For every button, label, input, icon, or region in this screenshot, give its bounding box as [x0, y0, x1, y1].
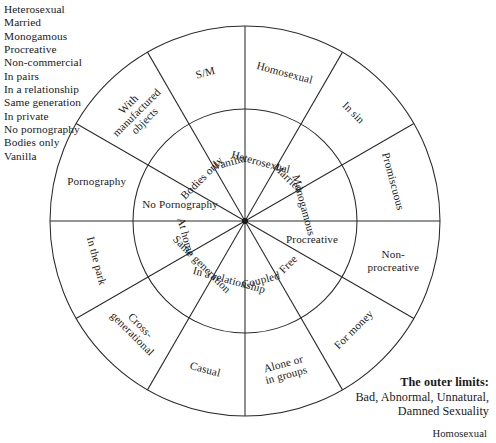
outer-segment-label: Non-procreative — [367, 248, 419, 273]
outer-segment-label: In the park — [85, 235, 110, 286]
outer-segment-label: Withmanufacturedobjects — [102, 77, 171, 146]
outer-segment-label: Cross-generational — [108, 301, 165, 358]
outer-segment-label: Casual — [189, 359, 222, 379]
bottom-note: Homosexual — [432, 428, 487, 439]
outer-segment-label: S/M — [194, 64, 216, 81]
center-hub — [242, 218, 248, 224]
inner-ring-labels: HeterosexualMarriedMonogamousProcreative… — [142, 148, 338, 295]
inner-segment-label: Same generation — [171, 233, 234, 296]
inner-segment-label: Monogamous — [290, 173, 318, 236]
inner-segment-label: No Pornography — [142, 198, 218, 210]
inner-segment-label: Free — [277, 253, 300, 276]
caption-title: The outer limits: — [299, 375, 489, 390]
outer-segment-label: Promiscuous — [380, 151, 407, 211]
outer-segment-label: Pornography — [67, 175, 126, 187]
outer-limits-caption: The outer limits: Bad, Abnormal, Unnatur… — [299, 375, 489, 419]
outer-segment-label: Homosexual — [255, 59, 314, 85]
outer-segment-label: For money — [332, 307, 376, 351]
caption-line-2: Damned Sexuality — [299, 404, 489, 419]
outer-segment-label: In sin — [340, 99, 367, 126]
inner-segment-label: Procreative — [286, 233, 338, 245]
caption-line-1: Bad, Abnormal, Unnatural, — [299, 390, 489, 405]
